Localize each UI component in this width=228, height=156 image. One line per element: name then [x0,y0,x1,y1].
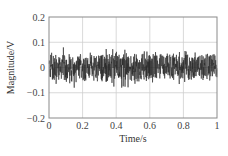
x-tick-label: 0 [47,120,52,131]
y-tick-label: −0.1 [27,87,45,98]
x-tick-label: 0.6 [144,120,157,131]
y-tick-label: −0.2 [27,113,45,124]
x-tick-labels: 00.20.40.60.81 [47,120,220,131]
signal-line [49,47,217,87]
y-tick-label: 0.2 [33,12,46,23]
x-tick-label: 1 [215,120,220,131]
y-tick-label: 0 [40,62,45,73]
chart: 0.20.10−0.1−0.2 00.20.40.60.81 Time/s Ma… [0,0,228,156]
x-axis-label: Time/s [119,133,147,144]
y-tick-label: 0.1 [33,37,46,48]
x-tick-label: 0.2 [76,120,89,131]
y-tick-labels: 0.20.10−0.1−0.2 [27,12,45,124]
x-tick-label: 0.8 [177,120,190,131]
signal-trace [49,47,217,87]
x-tick-label: 0.4 [110,120,123,131]
y-axis-label: Magnitude/V [5,40,16,94]
